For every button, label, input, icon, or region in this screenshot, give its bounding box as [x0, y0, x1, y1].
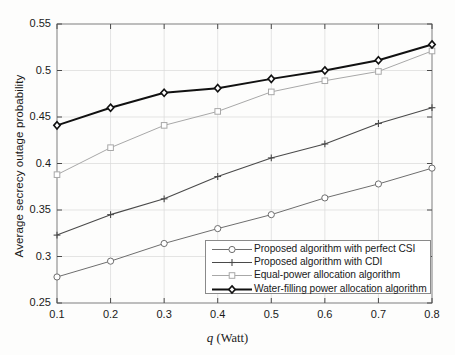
y-tick-label: 0.3: [15, 250, 51, 262]
data-point-diamond: [375, 57, 381, 64]
data-point-diamond: [229, 286, 235, 293]
y-tick-label: 0.4: [15, 157, 51, 169]
legend-marker-square-icon: [210, 268, 254, 281]
data-point-diamond: [54, 122, 60, 129]
data-point-circle: [375, 181, 381, 187]
data-point-square: [322, 78, 328, 84]
data-point-diamond: [268, 75, 274, 82]
series-2: [54, 48, 435, 177]
data-point-square: [376, 69, 382, 75]
plot-area: [0, 0, 455, 355]
figure-canvas: Average secrecy outage probability q (Wa…: [0, 0, 455, 355]
legend-marker-plus-icon: [210, 255, 254, 268]
data-point-square: [54, 172, 60, 178]
legend-label: Equal-power allocation algorithm: [254, 269, 400, 280]
x-tick-label: 0.3: [144, 308, 184, 320]
data-point-diamond: [107, 104, 113, 111]
series-line: [57, 108, 432, 235]
data-point-circle: [161, 240, 167, 246]
legend-label: Proposed algorithm with CDI: [254, 256, 382, 267]
x-tick-label: 0.4: [198, 308, 238, 320]
legend-label: Water-filling power allocation algorithm: [254, 283, 427, 294]
legend-marker-diamond-icon: [210, 282, 254, 295]
data-point-circle: [107, 258, 113, 264]
y-tick-label: 0.35: [15, 203, 51, 215]
data-point-circle: [429, 165, 435, 171]
x-tick-label: 0.1: [37, 308, 77, 320]
y-tick-label: 0.55: [15, 17, 51, 29]
data-point-square: [108, 145, 114, 151]
data-point-circle: [215, 226, 221, 232]
x-tick-label: 0.8: [412, 308, 452, 320]
data-point-circle: [322, 195, 328, 201]
data-point-circle: [268, 212, 274, 218]
legend-item[interactable]: Equal-power allocation algorithm: [210, 268, 430, 281]
y-tick-label: 0.45: [15, 110, 51, 122]
series-3: [54, 41, 435, 129]
data-point-diamond: [429, 41, 435, 48]
y-tick-label: 0.5: [15, 64, 51, 76]
data-point-square: [229, 273, 235, 279]
data-point-diamond: [322, 67, 328, 74]
legend-item[interactable]: Proposed algorithm with CDI: [210, 255, 430, 268]
legend-item[interactable]: Water-filling power allocation algorithm: [210, 282, 430, 295]
x-tick-label: 0.6: [305, 308, 345, 320]
legend-rows: Proposed algorithm with perfect CSIPropo…: [206, 241, 430, 295]
data-point-diamond: [161, 89, 167, 96]
legend: Proposed algorithm with perfect CSIPropo…: [205, 240, 431, 294]
legend-label: Proposed algorithm with perfect CSI: [254, 243, 415, 254]
data-point-square: [268, 89, 274, 95]
data-point-diamond: [215, 85, 221, 92]
data-point-square: [161, 123, 167, 129]
legend-marker-circle-icon: [210, 242, 254, 255]
x-tick-label: 0.7: [358, 308, 398, 320]
y-tick-label: 0.25: [15, 296, 51, 308]
data-point-circle: [54, 274, 60, 280]
legend-item[interactable]: Proposed algorithm with perfect CSI: [210, 242, 430, 255]
data-point-circle: [229, 246, 235, 252]
series-line: [57, 44, 432, 125]
x-tick-label: 0.2: [91, 308, 131, 320]
x-tick-label: 0.5: [251, 308, 291, 320]
data-point-square: [215, 109, 221, 115]
